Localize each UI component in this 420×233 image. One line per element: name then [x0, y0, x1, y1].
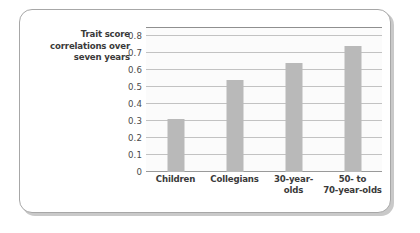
y-axis-tick-label: 0.1 — [128, 150, 142, 160]
x-axis-tick-label-line: 50- to — [320, 174, 386, 185]
y-axis-tick-label: 0.4 — [128, 99, 142, 109]
bars-layer — [146, 28, 382, 172]
y-axis-tick-label: 0.7 — [128, 48, 142, 58]
y-axis-tick-label: 0.2 — [128, 133, 142, 143]
x-axis-tick-label-line: olds — [261, 185, 327, 196]
x-axis-tick-label: Children — [143, 174, 209, 185]
x-axis-tick-label-line: Children — [143, 174, 209, 185]
y-axis-tick-label: 0.6 — [128, 65, 142, 75]
x-axis-tick-label: 50- to70-year-olds — [320, 174, 386, 196]
x-axis-tick-label-line: 70-year-olds — [320, 185, 386, 196]
x-axis-tick-label: 30-year-olds — [261, 174, 327, 196]
bar — [344, 46, 361, 172]
bar — [226, 80, 243, 172]
x-axis-tick-label: Collegians — [202, 174, 268, 185]
y-axis-tick-label: 0.8 — [128, 31, 142, 41]
bar-chart: Trait score correlations over seven year… — [20, 10, 390, 212]
x-axis-tick-labels: ChildrenCollegians30-year-olds50- to70-y… — [146, 174, 382, 214]
figure-card: Trait score correlations over seven year… — [19, 9, 391, 213]
bar — [167, 119, 184, 172]
x-axis-tick-label-line: Collegians — [202, 174, 268, 185]
y-axis-tick-label: 0.3 — [128, 116, 142, 126]
y-axis-tick-labels: 00.10.20.30.40.50.60.70.8 — [112, 27, 142, 172]
bar — [285, 63, 302, 172]
x-axis-tick-label-line: 30-year- — [261, 174, 327, 185]
y-axis-tick-label: 0 — [136, 167, 142, 177]
plot-area — [146, 27, 382, 172]
y-axis-tick-label: 0.5 — [128, 82, 142, 92]
